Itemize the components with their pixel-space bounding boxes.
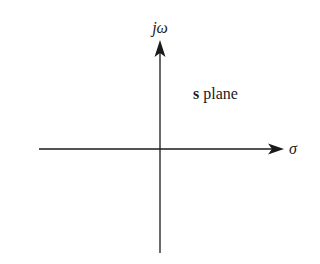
- s-plane-label-rest: plane: [199, 85, 238, 103]
- s-plane-diagram: jω σ s plane: [0, 0, 320, 264]
- jomega-label: jω: [150, 19, 168, 37]
- s-plane-label: s plane: [193, 85, 238, 103]
- sigma-label: σ: [289, 140, 298, 157]
